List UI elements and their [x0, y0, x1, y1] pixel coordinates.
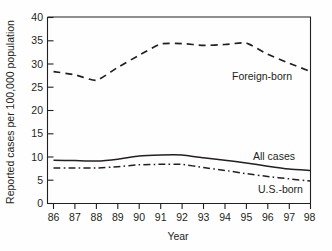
x-tick-label-96: 96 [262, 211, 274, 223]
x-tick-label-89: 89 [112, 211, 124, 223]
series-label-foreign-born: Foreign-born [232, 70, 292, 82]
y-tick-label-40: 40 [31, 11, 43, 23]
line-chart: 0 5 10 15 20 25 30 35 40 86 87 88 89 [0, 0, 332, 251]
y-tick-label-30: 30 [31, 58, 43, 70]
y-tick-label-25: 25 [31, 81, 43, 93]
series-label-us-born: U.S.-born [258, 183, 303, 195]
x-tick-label-91: 91 [155, 211, 167, 223]
y-axis-ticks [48, 18, 54, 204]
y-tick-label-0: 0 [37, 197, 43, 209]
x-tick-label-93: 93 [198, 211, 210, 223]
x-tick-label-92: 92 [176, 211, 188, 223]
y-tick-label-5: 5 [37, 174, 43, 186]
axis-left-bottom [48, 17, 312, 204]
x-tick-label-90: 90 [133, 211, 145, 223]
x-axis-title: Year [167, 230, 189, 242]
y-tick-label-20: 20 [31, 104, 43, 116]
x-axis-ticks [54, 204, 311, 210]
x-tick-label-86: 86 [48, 211, 60, 223]
x-tick-label-87: 87 [69, 211, 81, 223]
x-tick-label-98: 98 [304, 211, 316, 223]
y-axis-title: Reported cases per 100,000 population [4, 20, 16, 204]
x-tick-label-95: 95 [241, 211, 253, 223]
x-tick-label-97: 97 [283, 211, 295, 223]
series-label-all-cases: All cases [253, 150, 295, 162]
y-tick-label-35: 35 [31, 34, 43, 46]
x-tick-label-88: 88 [91, 211, 103, 223]
chart-figure: 0 5 10 15 20 25 30 35 40 86 87 88 89 [0, 0, 332, 251]
x-tick-label-94: 94 [219, 211, 231, 223]
y-tick-label-10: 10 [31, 151, 43, 163]
y-tick-label-15: 15 [31, 127, 43, 139]
